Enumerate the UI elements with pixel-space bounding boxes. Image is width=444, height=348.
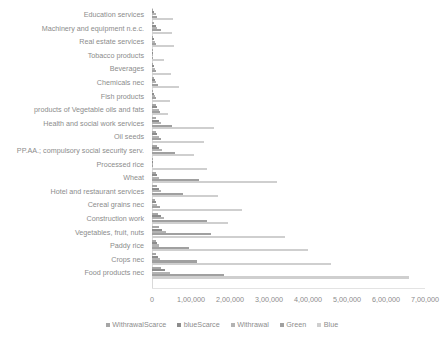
bar-blue — [152, 222, 228, 224]
category-label: Crops nec — [0, 253, 148, 267]
legend-item[interactable]: WithrawalScarce — [106, 320, 166, 329]
bar-group — [152, 8, 425, 22]
legend-label: Withrawal — [237, 320, 269, 329]
bar-blue — [152, 113, 168, 115]
x-axis-tick-labels: 01,00,0002,00,0003,00,0004,00,0005,00,00… — [0, 295, 444, 307]
bar-blue — [152, 127, 214, 129]
bar-blue — [152, 276, 409, 278]
bar-group — [152, 158, 425, 172]
x-tick-label: 1,00,000 — [177, 295, 205, 304]
legend-item[interactable]: Green — [280, 320, 306, 329]
bar-group — [152, 130, 425, 144]
plot-area: Education servicesMachinery and equipmen… — [0, 0, 444, 300]
category-label: Tobacco products — [0, 49, 148, 63]
x-tick-label: 2,00,000 — [216, 295, 244, 304]
legend-label: blueScarce — [184, 320, 220, 329]
legend-item[interactable]: blueScarce — [177, 320, 219, 329]
legend-swatch-icon — [231, 323, 235, 327]
category-label: Machinery and equipment n.e.c. — [0, 22, 148, 36]
bar-blue — [152, 45, 174, 47]
bar-group — [152, 239, 425, 253]
category-label: Construction work — [0, 212, 148, 226]
bar-group — [152, 171, 425, 185]
chart-legend: WithrawalScarceblueScarceWithrawalGreenB… — [0, 320, 444, 329]
bar-blue — [152, 236, 285, 238]
bar-group — [152, 144, 425, 158]
legend-label: WithrawalScarce — [112, 320, 166, 329]
x-tick-label: 5,00,000 — [333, 295, 361, 304]
x-tick-label: 0 — [150, 295, 154, 304]
bar-group — [152, 212, 425, 226]
x-tick-label: 4,00,000 — [294, 295, 322, 304]
bar-blue — [152, 168, 207, 170]
bar-group — [152, 117, 425, 131]
bar-group — [152, 185, 425, 199]
bar-blue — [152, 59, 164, 61]
category-label: Education services — [0, 8, 148, 22]
x-tick-label: 3,00,000 — [255, 295, 283, 304]
bar-blue — [152, 195, 218, 197]
grouped-bar-chart: Education servicesMachinery and equipmen… — [0, 0, 444, 348]
category-label: Vegetables, fruit, nuts — [0, 226, 148, 240]
bar-group — [152, 49, 425, 63]
category-label: Beverages — [0, 62, 148, 76]
bar-blue — [152, 32, 172, 34]
bar-blue — [152, 263, 331, 265]
bar-group — [152, 253, 425, 267]
bar-group — [152, 226, 425, 240]
bar-blue — [152, 141, 204, 143]
category-label: Paddy rice — [0, 239, 148, 253]
category-label: Real estate services — [0, 35, 148, 49]
bar-group — [152, 22, 425, 36]
category-label: PP.AA.; compulsory social security serv. — [0, 144, 148, 158]
legend-swatch-icon — [280, 323, 284, 327]
bar-group — [152, 62, 425, 76]
bar-group — [152, 90, 425, 104]
category-label: Food products nec — [0, 266, 148, 280]
x-tick-label: 6,00,000 — [372, 295, 400, 304]
bar-group — [152, 35, 425, 49]
bar-group — [152, 198, 425, 212]
category-label: Wheat — [0, 171, 148, 185]
bar-group — [152, 76, 425, 90]
legend-label: Green — [286, 320, 306, 329]
category-label: Fish products — [0, 90, 148, 104]
bar-blue — [152, 100, 170, 102]
category-label: Chemicals nec — [0, 76, 148, 90]
category-axis-labels: Education servicesMachinery and equipmen… — [0, 8, 148, 280]
bars-container — [152, 8, 425, 280]
x-axis-line — [152, 288, 425, 289]
bar-group — [152, 103, 425, 117]
bar-blue — [152, 209, 242, 211]
bar-blue — [152, 154, 194, 156]
category-label: Oil seeds — [0, 130, 148, 144]
bar-blue — [152, 181, 277, 183]
legend-swatch-icon — [317, 323, 321, 327]
legend-swatch-icon — [177, 323, 181, 327]
category-label: products of Vegetable oils and fats — [0, 103, 148, 117]
category-label: Hotel and restaurant services — [0, 185, 148, 199]
x-tick-label: 7,00,000 — [411, 295, 439, 304]
bar-group — [152, 266, 425, 280]
legend-label: Blue — [324, 320, 338, 329]
category-label: Health and social work services — [0, 117, 148, 131]
category-label: Processed rice — [0, 158, 148, 172]
bar-blue — [152, 86, 179, 88]
legend-item[interactable]: Blue — [317, 320, 338, 329]
bar-blue — [152, 73, 171, 75]
legend-item[interactable]: Withrawal — [231, 320, 269, 329]
category-label: Cereal grains nec — [0, 198, 148, 212]
legend-swatch-icon — [106, 323, 110, 327]
bar-blue — [152, 249, 308, 251]
bar-blue — [152, 18, 173, 20]
